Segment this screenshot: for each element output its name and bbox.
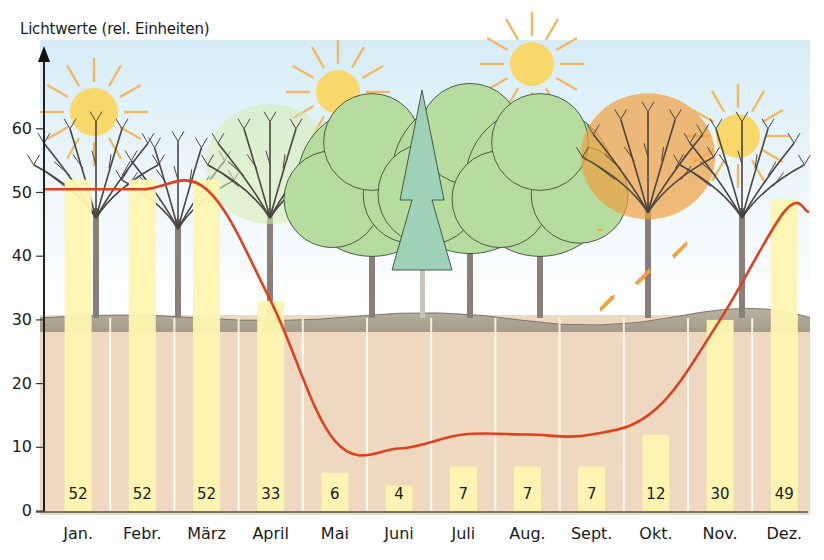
x-category-label: Dez. [752, 524, 816, 543]
x-category-label: Sept. [560, 524, 624, 543]
y-tick-label: 10 [2, 437, 32, 456]
x-category-label: Jan. [46, 524, 110, 543]
bar [771, 199, 798, 511]
x-category-label: Juli [431, 524, 495, 543]
bar-value-label: 30 [700, 485, 740, 503]
bar [65, 180, 92, 511]
y-tick-label: 30 [2, 310, 32, 329]
y-tick-label: 60 [2, 119, 32, 138]
bar-value-label: 4 [379, 485, 419, 503]
bar-value-label: 12 [636, 485, 676, 503]
x-category-label: Febr. [110, 524, 174, 543]
bar-value-label: 6 [315, 485, 355, 503]
x-category-label: Juni [367, 524, 431, 543]
bar [193, 180, 220, 511]
chart-figure: Lichtwerte (rel. Einheiten) 010203040506… [0, 0, 824, 560]
x-category-label: Aug. [496, 524, 560, 543]
bar-value-label: 7 [443, 485, 483, 503]
bar-value-label: 33 [251, 485, 291, 503]
y-axis-title: Lichtwerte (rel. Einheiten) [20, 20, 209, 38]
y-tick-label: 20 [2, 374, 32, 393]
y-tick-label: 40 [2, 246, 32, 265]
x-category-label: Nov. [688, 524, 752, 543]
bar [129, 180, 156, 511]
bar [707, 320, 734, 511]
bar-value-label: 52 [58, 485, 98, 503]
chart-canvas [0, 0, 824, 560]
x-category-label: Okt. [624, 524, 688, 543]
x-category-label: März [175, 524, 239, 543]
x-category-label: Mai [303, 524, 367, 543]
y-tick-label: 50 [2, 183, 32, 202]
bar [257, 301, 284, 511]
x-category-label: April [239, 524, 303, 543]
bar-value-label: 52 [122, 485, 162, 503]
bar-value-label: 49 [764, 485, 804, 503]
y-tick-label: 0 [2, 501, 32, 520]
bar-value-label: 7 [508, 485, 548, 503]
bar-value-label: 7 [572, 485, 612, 503]
bar-value-label: 52 [187, 485, 227, 503]
